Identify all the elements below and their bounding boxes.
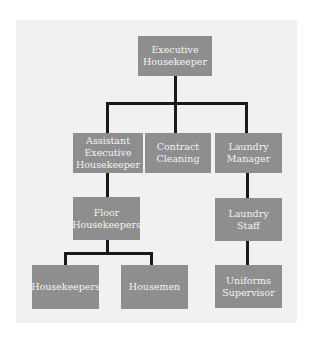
connector-to-housemen <box>150 252 153 265</box>
node-label: Contract Cleaning <box>157 141 200 165</box>
node-executive-housekeeper: Executive Housekeeper <box>138 36 212 76</box>
node-label: Laundry Manager <box>227 141 270 165</box>
connector-to-contract <box>174 102 177 133</box>
node-assistant-executive-housekeeper: Assistant Executive Housekeeper <box>73 133 143 173</box>
connector-to-laundry-manager <box>245 102 248 133</box>
node-label: Laundry Staff <box>228 208 268 232</box>
node-floor-housekeepers: Floor Housekeepers <box>73 197 140 240</box>
node-housekeepers: Housekeepers <box>32 265 99 309</box>
node-laundry-manager: Laundry Manager <box>215 133 282 173</box>
node-label: Uniforms Supervisor <box>222 275 274 299</box>
connector-to-housekeepers <box>64 252 67 265</box>
node-label: Executive Housekeeper <box>143 44 207 68</box>
node-label: Housekeepers <box>31 281 100 293</box>
node-uniforms-supervisor: Uniforms Supervisor <box>215 265 282 308</box>
connector-level3-horizontal <box>64 252 153 255</box>
connector-laundry-manager-to-staff <box>246 173 249 198</box>
connector-to-assistant <box>106 102 109 133</box>
connector-laundry-staff-to-uniforms <box>246 241 249 265</box>
node-label: Floor Housekeepers <box>72 207 141 231</box>
node-housemen: Housemen <box>121 265 188 309</box>
node-label: Housemen <box>129 281 180 293</box>
connector-level1-horizontal <box>106 102 248 105</box>
connector-exec-down <box>174 76 177 104</box>
node-laundry-staff: Laundry Staff <box>215 198 282 241</box>
node-contract-cleaning: Contract Cleaning <box>145 133 211 173</box>
node-label: Assistant Executive Housekeeper <box>76 135 140 171</box>
connector-assistant-to-floor <box>106 173 109 197</box>
